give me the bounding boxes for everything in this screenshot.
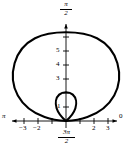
y-tick-label-3: 3	[56, 75, 60, 82]
polar-plot-figure: π 0 π 2 3π 2 −3 −2 2 3 5 4 3 1	[0, 0, 128, 148]
three-pi-over-2-denominator: 2	[58, 138, 75, 145]
axis-label-pi-left: π	[2, 113, 6, 120]
axis-label-pi-over-2-top: π 2	[60, 1, 72, 17]
x-tick-label-3: 3	[106, 125, 110, 132]
pi-over-2-denominator: 2	[60, 10, 72, 17]
x-tick-label-minus-2: −2	[33, 125, 40, 132]
pi-over-2-numerator: π	[60, 1, 72, 8]
x-tick-label-minus-3: −3	[19, 125, 26, 132]
axis-label-3pi-over-2-bottom: 3π 2	[58, 129, 75, 145]
x-tick-label-2: 2	[92, 125, 96, 132]
y-tick-label-4: 4	[56, 61, 60, 68]
three-pi-over-2-numerator: 3π	[58, 129, 75, 136]
axis-label-zero-right: 0	[119, 113, 123, 120]
y-tick-label-1: 1	[57, 103, 61, 110]
y-tick-label-5: 5	[56, 47, 60, 54]
vertical-axis	[64, 24, 68, 128]
